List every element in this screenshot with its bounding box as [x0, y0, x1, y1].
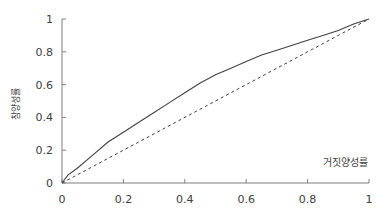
- tick-labels: 00.20.40.60.8100.20.40.60.81: [36, 13, 373, 206]
- y-tick-label: 1: [46, 13, 53, 26]
- x-tick-label: 0.6: [237, 193, 255, 206]
- x-tick-label: 0: [59, 193, 66, 206]
- x-axis-label: 거짓양성률: [323, 157, 368, 168]
- x-tick-label: 0.4: [176, 193, 194, 206]
- y-tick-label: 0: [46, 177, 53, 190]
- x-tick-label: 0.8: [299, 193, 317, 206]
- roc-chart: 00.20.40.60.8100.20.40.60.81 거짓양성률 참양성률: [0, 0, 390, 218]
- y-tick-label: 0.8: [36, 46, 54, 59]
- y-tick-label: 0.6: [36, 79, 54, 92]
- x-tick-label: 1: [366, 193, 373, 206]
- y-axis-label: 참양성률: [11, 88, 21, 120]
- y-tick-label: 0.4: [36, 111, 54, 124]
- x-tick-label: 0.2: [115, 193, 133, 206]
- y-tick-label: 0.2: [36, 144, 54, 157]
